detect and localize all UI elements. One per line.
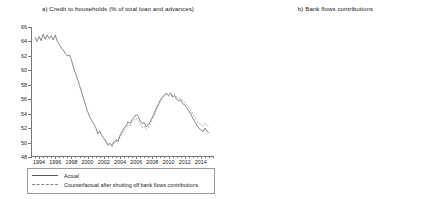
panel-b-title: b) Bank flows contributions xyxy=(224,5,447,12)
y-tick-label: 56 xyxy=(21,96,27,102)
x-tick-label: 2004 xyxy=(114,159,126,165)
panel-a-credit-to-households: a) Credit to households (% of total loan… xyxy=(0,0,224,199)
x-tick-label: 2012 xyxy=(179,159,191,165)
legend-label-counterfactual: Counterfactual after shutting off bank f… xyxy=(64,182,198,188)
panel-a-plot-area: 48505254565860626466 1994199619982000200… xyxy=(31,27,213,157)
series-line-counterfactual xyxy=(104,93,209,147)
x-tick-label: 1996 xyxy=(49,159,61,165)
series-line-actual xyxy=(35,34,209,145)
y-tick-label: 48 xyxy=(21,154,27,160)
y-tick-label: 54 xyxy=(21,111,27,117)
x-tick-label: 2010 xyxy=(163,159,175,165)
x-minor-tick-mark xyxy=(213,156,214,158)
x-tick-label: 2000 xyxy=(82,159,94,165)
x-tick-label: 1994 xyxy=(33,159,45,165)
y-tick-label: 50 xyxy=(21,140,27,146)
legend-label-actual: Actual xyxy=(64,173,79,179)
y-tick-label: 66 xyxy=(21,24,27,30)
legend-item-actual: Actual xyxy=(32,171,79,180)
legend-item-counterfactual: Counterfactual after shutting off bank f… xyxy=(32,180,198,189)
x-tick-label: 2014 xyxy=(195,159,207,165)
y-tick-label: 58 xyxy=(21,82,27,88)
y-tick-label: 60 xyxy=(21,67,27,73)
y-tick-label: 64 xyxy=(21,38,27,44)
panel-a-title: a) Credit to households (% of total loan… xyxy=(6,5,230,12)
x-tick-label: 2006 xyxy=(130,159,142,165)
x-tick-label: 2008 xyxy=(146,159,158,165)
x-tick-label: 1998 xyxy=(65,159,77,165)
y-tick-label: 52 xyxy=(21,125,27,131)
y-tick-label: 62 xyxy=(21,53,27,59)
figure-container: a) Credit to households (% of total loan… xyxy=(0,0,447,199)
panel-a-legend: Actual Counterfactual after shutting off… xyxy=(27,168,215,194)
panel-a-series-layer xyxy=(31,27,213,157)
panel-b-bank-flows-contributions: b) Bank flows contributions -1.00-0.75-0… xyxy=(224,0,447,199)
legend-swatch-solid-icon xyxy=(32,175,58,176)
x-tick-label: 2002 xyxy=(98,159,110,165)
legend-swatch-dashed-icon xyxy=(32,184,58,185)
